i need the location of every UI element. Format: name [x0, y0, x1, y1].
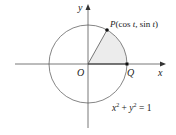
point-p-label: P(cos t, sin t): [109, 19, 158, 29]
equation-label: x2 + y2 = 1: [111, 102, 152, 113]
point-p: [105, 28, 109, 32]
point-q-label: Q: [127, 67, 135, 78]
x-axis-arrow-icon: [160, 62, 166, 67]
point-q: [126, 63, 129, 66]
diagram-canvas: y x O Q P(cos t, sin t) x2 + y2 = 1: [0, 0, 176, 135]
origin-label: O: [77, 67, 84, 78]
y-axis-arrow-icon: [86, 4, 91, 10]
x-axis-label: x: [157, 67, 163, 78]
y-axis-label: y: [77, 2, 83, 13]
unit-circle-diagram: y x O Q P(cos t, sin t) x2 + y2 = 1: [0, 0, 176, 135]
shaded-sector: [88, 30, 127, 64]
